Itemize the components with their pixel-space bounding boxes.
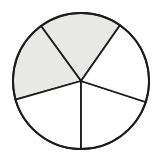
pie-diagram-figure: Circle divided into five sectors with tw… [0,0,161,163]
pie-chart-svg: Circle divided into five sectors with tw… [0,0,161,163]
